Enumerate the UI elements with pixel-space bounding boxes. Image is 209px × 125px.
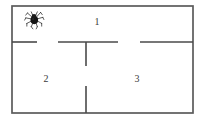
spider-icon <box>23 8 45 30</box>
room-label-2: 2 <box>44 74 49 84</box>
room-label-3: 3 <box>135 74 140 84</box>
room-label-1: 1 <box>95 17 100 27</box>
floor-plan-diagram: 1 2 3 <box>0 0 209 125</box>
